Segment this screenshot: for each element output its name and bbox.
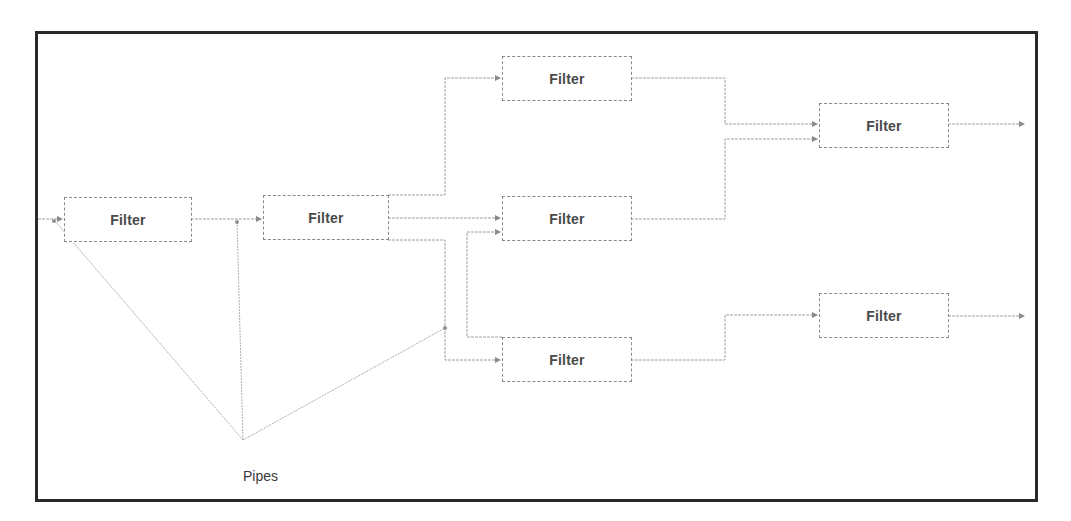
pipe-f3-f6 [631,78,817,124]
pipe-f5-f4 [467,232,502,337]
filter-box-3: Filter [502,56,632,101]
pipes-annotation-lines [54,220,445,440]
filter-box-2: Filter [263,195,389,240]
pipe-f5-f7 [631,315,817,360]
filter-box-1: Filter [64,197,192,242]
filter-box-6: Filter [819,103,949,148]
pipe-f2-f5 [388,240,500,360]
pipe-f4-f6 [631,139,817,219]
filter-box-4: Filter [502,196,632,241]
filter-box-7: Filter [819,293,949,338]
filter-box-5: Filter [502,337,632,382]
pipe-f2-f3 [388,78,500,195]
pipes-label: Pipes [243,468,278,484]
